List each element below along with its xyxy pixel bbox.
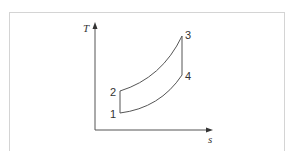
point-label-2: 2 <box>110 86 116 98</box>
y-axis-arrow-icon <box>93 22 98 29</box>
point-label-3: 3 <box>185 29 191 41</box>
point-label-4: 4 <box>185 70 191 82</box>
x-axis-label: s <box>208 133 212 145</box>
y-axis-label: T <box>83 22 90 34</box>
ts-diagram: T s 1 2 3 4 <box>0 0 289 151</box>
process-4-1 <box>120 75 182 113</box>
x-axis-arrow-icon <box>206 128 213 133</box>
point-label-1: 1 <box>110 108 116 120</box>
process-2-3 <box>120 36 182 91</box>
